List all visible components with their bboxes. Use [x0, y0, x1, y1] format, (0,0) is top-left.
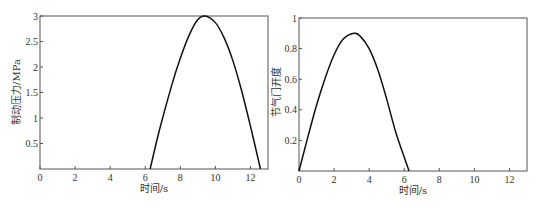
y-tick-label: 1.5: [26, 87, 39, 98]
brake-pressure-chart: 024681012 0.511.522.53 时间/s 制动压力/MPa: [10, 11, 268, 195]
throttle-opening-curve: [299, 33, 409, 171]
y-axis-label: 制动压力/MPa: [10, 59, 22, 125]
y-axis-label: 节气门开度: [270, 67, 282, 117]
x-axis-label: 时间/s: [140, 182, 169, 194]
y-tick-label: 0.4: [285, 104, 298, 115]
throttle-opening-chart: 024681012 0.20.40.60.81 时间/s 节气门开度: [270, 13, 527, 197]
x-tick-label: 0: [38, 172, 43, 183]
y-tick-label: 0.8: [285, 43, 298, 54]
figure: 024681012 0.511.522.53 时间/s 制动压力/MPa 024…: [0, 0, 540, 207]
plot-frame: [299, 18, 527, 171]
y-tick-label: 1: [292, 13, 297, 24]
y-tick-label: 0.6: [285, 74, 298, 85]
x-axis-label: 时间/s: [399, 184, 428, 196]
y-tick-label: 3: [33, 11, 38, 22]
brake-pressure-curve: [150, 16, 260, 169]
figure-canvas: 024681012 0.511.522.53 时间/s 制动压力/MPa 024…: [0, 0, 540, 207]
x-tick-label: 10: [469, 174, 479, 185]
y-tick-label: 0.5: [26, 138, 39, 149]
x-tick-label: 6: [143, 172, 148, 183]
y-tick-label: 0.2: [285, 135, 298, 146]
x-tick-label: 8: [178, 172, 183, 183]
x-tick-label: 6: [402, 174, 407, 185]
x-tick-label: 2: [332, 174, 337, 185]
plot-frame: [40, 16, 268, 169]
x-tick-label: 4: [108, 172, 113, 183]
y-tick-label: 1: [33, 113, 38, 124]
x-tick-label: 12: [245, 172, 255, 183]
x-tick-label: 0: [297, 174, 302, 185]
y-tick-label: 2: [33, 62, 38, 73]
x-tick-label: 4: [367, 174, 372, 185]
x-tick-label: 12: [504, 174, 514, 185]
x-tick-label: 2: [73, 172, 78, 183]
x-tick-label: 8: [437, 174, 442, 185]
y-tick-label: 2.5: [26, 36, 39, 47]
x-tick-label: 10: [210, 172, 220, 183]
